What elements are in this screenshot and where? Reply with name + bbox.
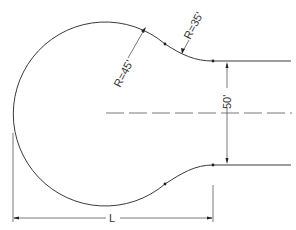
tangent-point-lower-curve: [164, 183, 167, 186]
tangent-point-lower-street: [212, 164, 215, 167]
length-label: L: [109, 212, 115, 224]
width-arrow-top-icon: [226, 62, 229, 68]
length-arrow-left-icon: [13, 217, 19, 220]
bulb-arc: [13, 22, 165, 206]
cul-de-sac-diagram: 50' R=45' R=35' L: [0, 0, 296, 230]
width-arrow-bottom-icon: [226, 158, 229, 164]
length-arrow-right-icon: [207, 217, 213, 220]
tangent-point-upper-street: [212, 60, 215, 63]
small-radius-label: R=35': [181, 10, 205, 41]
width-label: 50': [221, 95, 233, 109]
tangent-point-upper-curve: [164, 43, 167, 46]
large-radius-leader: [128, 30, 144, 58]
upper-transition-curve: [165, 44, 213, 61]
large-radius-label: R=45': [111, 58, 135, 89]
lower-transition-curve: [165, 165, 213, 184]
